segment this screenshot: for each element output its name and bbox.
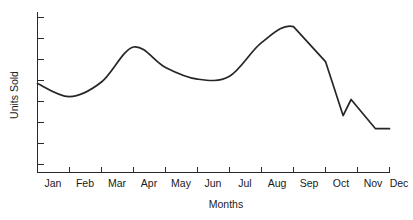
x-tick-label: May: [171, 177, 192, 189]
x-axis-ticks: [38, 167, 390, 173]
chart-canvas: Jan Feb Mar Apr May Jun Jul Aug Sep Oct …: [0, 0, 413, 220]
y-axis-title: Units Sold: [8, 71, 20, 119]
line-chart: Jan Feb Mar Apr May Jun Jul Aug Sep Oct …: [0, 0, 413, 220]
x-tick-label: Jun: [205, 177, 222, 189]
x-tick-label: Apr: [141, 177, 158, 189]
x-tick-label: Jul: [238, 177, 251, 189]
x-tick-label: Dec: [390, 177, 409, 189]
x-tick-label: Sep: [300, 177, 319, 189]
x-axis-title: Months: [209, 198, 243, 210]
x-axis-tick-labels: Jan Feb Mar Apr May Jun Jul Aug Sep Oct …: [45, 177, 409, 189]
data-series-line: [38, 26, 390, 129]
x-tick-label: Aug: [268, 177, 287, 189]
x-tick-label: Oct: [333, 177, 349, 189]
x-tick-label: Jan: [45, 177, 62, 189]
x-tick-label: Feb: [76, 177, 94, 189]
y-axis-ticks: [38, 18, 44, 165]
x-tick-label: Mar: [108, 177, 127, 189]
x-tick-label: Nov: [364, 177, 383, 189]
